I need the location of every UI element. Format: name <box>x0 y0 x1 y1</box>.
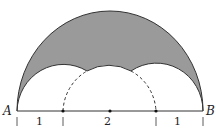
label-B: B <box>205 104 215 118</box>
label-A: A <box>2 104 12 118</box>
segment-label-1: 1 <box>36 115 43 128</box>
middle-semicircle-dashed-left <box>63 71 87 111</box>
middle-semicircle-dashed-right <box>131 71 156 111</box>
segment-label-3: 1 <box>174 115 181 128</box>
point-left-dot <box>61 109 64 112</box>
point-right-dot <box>154 109 157 112</box>
segment-label-2: 2 <box>104 115 111 128</box>
shaded-region-fill <box>17 11 203 111</box>
point-center-dot <box>108 109 111 112</box>
diagram-canvas: A B 1 2 1 <box>0 0 216 132</box>
